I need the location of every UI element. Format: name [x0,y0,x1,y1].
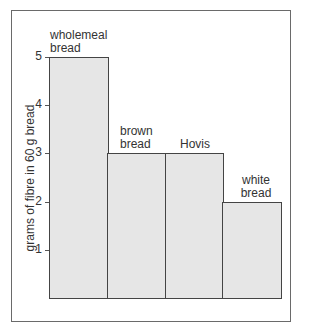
bar-label-brown-bread: brown bread [120,125,153,151]
bar-label-white-bread: white bread [236,174,276,200]
bar-label-line: bread [236,187,276,200]
y-tick-label-5: 5 [28,49,42,63]
bar-hovis [165,153,224,299]
bar-label-hovis: Hovis [180,138,210,151]
y-tick-label-2: 2 [28,194,42,208]
bar-label-line: Hovis [180,138,210,151]
bar-label-wholemeal-bread: wholemeal bread [50,29,107,55]
bar-label-line: bread [50,42,107,55]
bar-label-line: bread [120,138,153,151]
bar-wholemeal-bread [49,57,109,299]
y-tick-label-1: 1 [28,242,42,256]
bar-brown-bread [107,153,167,299]
y-tick-label-4: 4 [28,97,42,111]
y-tick-label-3: 3 [28,145,42,159]
bar-white-bread [222,202,282,299]
